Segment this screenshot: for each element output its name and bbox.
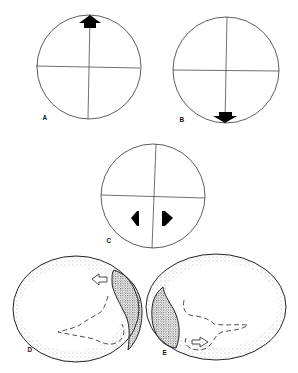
panel-a-circle [36, 15, 141, 119]
panel-label-a: A [43, 113, 48, 122]
arrow-up-icon [79, 15, 101, 28]
panel-e-egg [146, 254, 286, 360]
arrow-right-icon [162, 211, 173, 226]
arrow-down-icon [213, 112, 237, 123]
panel-label-d: D [28, 345, 33, 354]
panel-label-e: E [163, 348, 167, 357]
panel-b-circle [173, 17, 279, 123]
panel-label-c: C [107, 236, 112, 245]
panel-c-circle [101, 144, 205, 248]
panel-label-b: B [180, 115, 185, 124]
arrow-left-icon [131, 211, 139, 226]
figure-canvas [0, 0, 298, 373]
